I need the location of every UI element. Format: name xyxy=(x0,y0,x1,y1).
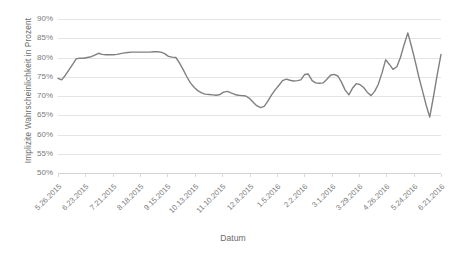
x-tick-label: 6.21.2016 xyxy=(391,182,447,238)
x-axis-title: Datum xyxy=(0,233,466,243)
chart-container: Implizite Wahrscheinlichkeit in Prozent … xyxy=(0,0,466,256)
x-axis-tick-labels: 5.26.20156.23.20157.21.20158.18.20159.15… xyxy=(0,0,466,256)
